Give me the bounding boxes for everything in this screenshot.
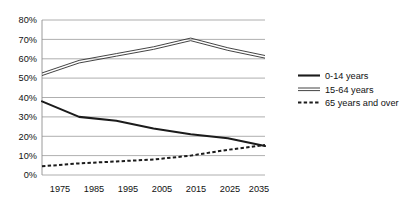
y-tick-label-70: 70% [19, 35, 37, 45]
chart-canvas: 80% 70% 60% 50% 40% 30% 20% 10% 0% 1975 … [0, 0, 409, 214]
x-tick-label-1985: 1985 [84, 184, 104, 194]
x-tick-label-2025: 2025 [220, 184, 240, 194]
y-tick-label-10: 10% [19, 151, 37, 161]
y-tick-label-50: 50% [19, 73, 37, 83]
x-tick-label-1995: 1995 [118, 184, 138, 194]
x-tick-label-2005: 2005 [152, 184, 172, 194]
y-tick-label-0: 0% [24, 170, 37, 180]
y-tick-label-80: 80% [19, 15, 37, 25]
x-tick-label-1975: 1975 [50, 184, 70, 194]
legend-label-15-64-years: 15-64 years [325, 85, 374, 95]
y-tick-label-60: 60% [19, 54, 37, 64]
x-tick-label-2015: 2015 [186, 184, 206, 194]
legend-label-65-years-and-over: 65 years and over [325, 98, 399, 108]
y-tick-label-40: 40% [19, 93, 37, 103]
x-tick-label-2035: 2035 [249, 184, 269, 194]
y-tick-label-30: 30% [19, 112, 37, 122]
line-chart: 80% 70% 60% 50% 40% 30% 20% 10% 0% 1975 … [0, 0, 409, 214]
y-axis-tick-labels: 80% 70% 60% 50% 40% 30% 20% 10% 0% [19, 15, 37, 180]
legend-label-0-14-years: 0-14 years [325, 71, 369, 81]
y-tick-label-20: 20% [19, 132, 37, 142]
